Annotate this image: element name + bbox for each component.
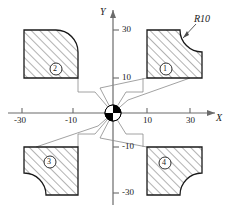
- x-tick-label--10: -10: [65, 116, 77, 125]
- y-axis-label: Y: [100, 7, 106, 17]
- y-tick-label-10: 10: [122, 73, 131, 82]
- y-tick-label--30: -30: [122, 188, 134, 197]
- x-tick-label-30: 30: [186, 116, 195, 125]
- shape-2-label: 2: [53, 65, 57, 73]
- technical-drawing-figure: [0, 0, 228, 217]
- radius-callout-label: R10: [194, 14, 210, 24]
- y-tick-label--10: -10: [122, 142, 134, 151]
- x-axis-label: X: [216, 113, 222, 123]
- origin-pie-marker: [105, 105, 121, 121]
- shape-3-label: 3: [47, 158, 51, 166]
- shape-4-label: 4: [162, 159, 166, 167]
- x-tick-label-10: 10: [143, 116, 152, 125]
- y-tick-label-30: 30: [122, 25, 131, 34]
- shape-1-label: 1: [163, 65, 167, 73]
- x-tick-label--30: -30: [14, 116, 26, 125]
